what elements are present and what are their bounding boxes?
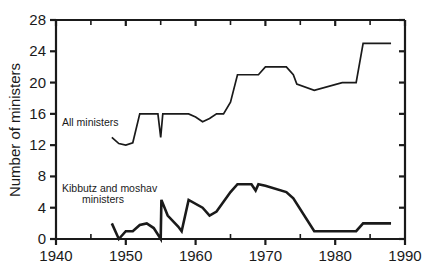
y-tick-label: 28 bbox=[29, 11, 46, 28]
y-tick-label: 24 bbox=[29, 42, 46, 59]
y-tick-label: 8 bbox=[38, 167, 46, 184]
y-tick-label: 20 bbox=[29, 74, 46, 91]
y-axis-tick-labels: 0481216202428 bbox=[29, 11, 46, 247]
chart-figure: 0481216202428 194019501960197019801990 N… bbox=[0, 0, 431, 272]
y-axis-title: Number of ministers bbox=[6, 63, 23, 197]
series-label-all-ministers: All ministers bbox=[62, 116, 119, 128]
data-series-group bbox=[112, 43, 391, 239]
series-label-kibbutz-line2: ministers bbox=[82, 193, 124, 205]
x-tick-label: 1960 bbox=[179, 247, 212, 264]
y-tick-label: 12 bbox=[29, 136, 46, 153]
axes-group bbox=[56, 20, 405, 239]
x-axis-tick-labels: 194019501960197019801990 bbox=[39, 247, 421, 264]
x-tick-label: 1970 bbox=[249, 247, 282, 264]
y-tick-label: 4 bbox=[38, 199, 46, 216]
x-tick-label: 1980 bbox=[319, 247, 352, 264]
x-tick-label: 1940 bbox=[39, 247, 72, 264]
y-tick-label: 0 bbox=[38, 230, 46, 247]
series-line-all-ministers bbox=[112, 43, 391, 145]
x-tick-label: 1950 bbox=[109, 247, 142, 264]
line-chart: 0481216202428 194019501960197019801990 N… bbox=[0, 0, 431, 272]
x-tick-label: 1990 bbox=[388, 247, 421, 264]
y-tick-label: 16 bbox=[29, 105, 46, 122]
